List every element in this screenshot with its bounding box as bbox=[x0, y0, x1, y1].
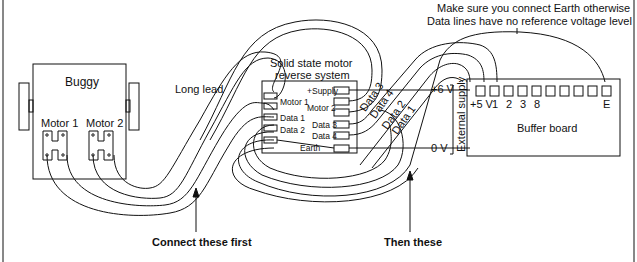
pin-label-data4: Data 4 bbox=[312, 132, 337, 141]
buffer-pin-8: 8 bbox=[534, 99, 540, 110]
buffer-pin-2: 2 bbox=[506, 99, 512, 110]
buffer-pin-5v: +5 V bbox=[470, 99, 493, 110]
pin-label-motor2: Motor 2 bbox=[307, 104, 336, 113]
pin-label-supply: +Supply bbox=[307, 87, 338, 96]
note-line-1: Make sure you connect Earth otherwise bbox=[437, 3, 630, 14]
buffer-pin-1: 1 bbox=[492, 99, 498, 110]
pin-label-earth: Earth bbox=[300, 144, 320, 153]
callout-then-these: Then these bbox=[384, 237, 442, 248]
callout-connect-first: Connect these first bbox=[152, 237, 252, 248]
buffer-pin-e: E bbox=[603, 99, 610, 110]
long-lead-label: Long lead bbox=[175, 84, 223, 95]
supply-plus6v-label: +6 V bbox=[431, 84, 454, 95]
left-wheel bbox=[19, 83, 29, 130]
left-axle bbox=[29, 100, 33, 112]
pin-label-motor1: Motor 1 bbox=[280, 98, 309, 107]
buggy-title: Buggy bbox=[65, 76, 99, 88]
supply-0v-label: 0 V bbox=[431, 143, 448, 154]
buffer-board-title: Buffer board bbox=[517, 123, 577, 134]
external-supply-label: External supply bbox=[456, 77, 467, 152]
reverse-system-title-1: Solid state motor bbox=[270, 58, 353, 69]
pin-label-data2: Data 2 bbox=[280, 126, 305, 135]
pin-label-data1: Data 1 bbox=[280, 114, 305, 123]
buffer-pin-3: 3 bbox=[520, 99, 526, 110]
note-line-2: Data lines have no reference voltage lev… bbox=[427, 16, 632, 27]
wiring-diagram: Make sure you connect Earth otherwise Da… bbox=[0, 0, 637, 262]
motor1-label: Motor 1 bbox=[41, 118, 78, 129]
reverse-system-title-2: reverse system bbox=[275, 70, 350, 81]
pin-label-data3: Data 3 bbox=[312, 121, 337, 130]
motor2-label: Motor 2 bbox=[86, 118, 123, 129]
